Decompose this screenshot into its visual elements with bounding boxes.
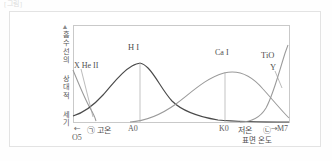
point-label-y: Y	[270, 62, 276, 72]
curve-label-he2: X He II	[74, 61, 98, 70]
figure-container: [그림] ▲ 흡수선의 상대적 세기 H I X He II Ca I TiO …	[0, 0, 332, 161]
x-axis-left-arrow-icon: ←	[74, 124, 81, 133]
plot-canvas	[0, 0, 332, 161]
x-tick-o5: O5	[72, 133, 82, 142]
x-axis-label: 표면 온도	[242, 134, 272, 145]
x-axis-marker-a: ㉠	[87, 124, 95, 135]
curve-h1	[73, 63, 289, 122]
curve-ca1	[130, 72, 289, 122]
x-axis-hot-label: 고온	[97, 124, 111, 135]
curve-label-h1: H I	[128, 42, 139, 52]
curve-he2	[73, 70, 96, 121]
x-tick-m7: M7	[277, 124, 288, 133]
curve-label-ca1: Ca I	[215, 48, 229, 57]
x-axis-right-arrow-icon: →	[271, 124, 278, 133]
curve-label-tio: TiO	[261, 50, 274, 60]
x-tick-k0: K0	[219, 124, 229, 133]
x-tick-a0: A0	[128, 124, 138, 133]
